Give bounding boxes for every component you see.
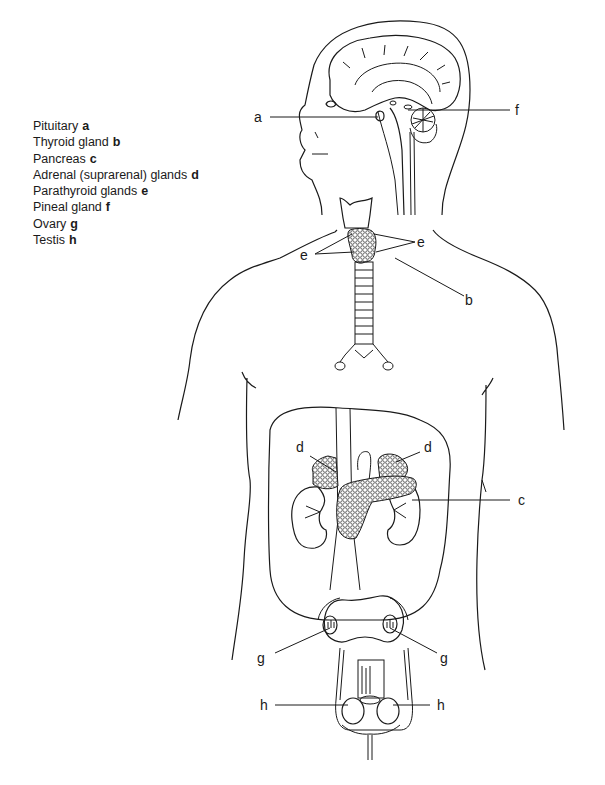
label-g-right: g — [440, 650, 448, 666]
label-b: b — [465, 292, 473, 308]
body-outline — [178, 21, 564, 670]
label-g-left: g — [257, 650, 265, 666]
label-a: a — [254, 109, 262, 125]
label-h-right: h — [437, 697, 445, 713]
label-d-right: d — [424, 439, 432, 455]
leader-b — [395, 258, 464, 296]
pancreas — [337, 476, 417, 539]
neck-organs — [335, 198, 393, 370]
brain — [312, 35, 460, 215]
label-f: f — [515, 102, 519, 118]
thyroid-gland — [348, 229, 376, 264]
label-e-right: e — [417, 234, 425, 250]
leader-e-right — [374, 234, 415, 252]
adrenal-gland-left — [312, 456, 338, 489]
label-c: c — [518, 492, 525, 508]
trachea — [335, 262, 393, 370]
leader-g-left — [275, 628, 330, 653]
leader-g-right — [390, 628, 437, 653]
label-h-left: h — [260, 697, 268, 713]
endocrine-diagram: a f b e e d d c g g h h — [0, 0, 605, 785]
label-d-left: d — [296, 439, 304, 455]
male-organs — [336, 648, 413, 760]
label-e-left: e — [300, 247, 308, 263]
